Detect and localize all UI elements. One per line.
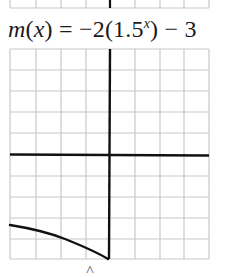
partial-glyph: ˄	[86, 262, 94, 277]
y-axis	[109, 49, 110, 259]
function-curve	[10, 225, 108, 259]
previous-graph-fragment	[10, 0, 209, 8]
function-equation: m(x) = −2(1.5x) − 3	[8, 16, 197, 43]
